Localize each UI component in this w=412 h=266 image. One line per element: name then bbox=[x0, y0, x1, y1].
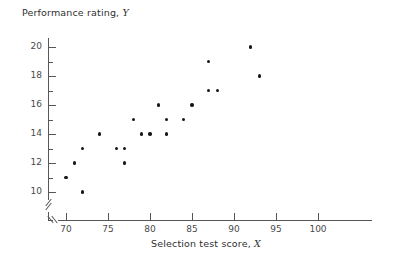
data-points-layer bbox=[0, 0, 412, 266]
data-point bbox=[64, 176, 67, 179]
x-axis-variable-symbol: X bbox=[254, 238, 261, 249]
scatter-plot-figure: Performance rating, Y 101214161820707580… bbox=[0, 0, 412, 266]
data-point bbox=[190, 103, 193, 106]
data-point bbox=[123, 147, 126, 150]
data-point bbox=[207, 60, 210, 63]
x-axis-title-label: Selection test score, bbox=[151, 238, 254, 249]
data-point bbox=[81, 147, 84, 150]
data-point bbox=[115, 147, 118, 150]
data-point bbox=[249, 45, 252, 48]
x-axis-title: Selection test score, X bbox=[0, 238, 412, 249]
data-point bbox=[182, 118, 185, 121]
data-point bbox=[165, 132, 168, 135]
data-point bbox=[258, 74, 261, 77]
data-point bbox=[132, 118, 135, 121]
data-point bbox=[216, 89, 219, 92]
data-point bbox=[148, 132, 151, 135]
data-point bbox=[207, 89, 210, 92]
data-point bbox=[81, 190, 84, 193]
data-point bbox=[123, 161, 126, 164]
data-point bbox=[98, 132, 101, 135]
data-point bbox=[73, 161, 76, 164]
data-point bbox=[140, 132, 143, 135]
data-point bbox=[165, 118, 168, 121]
data-point bbox=[157, 103, 160, 106]
